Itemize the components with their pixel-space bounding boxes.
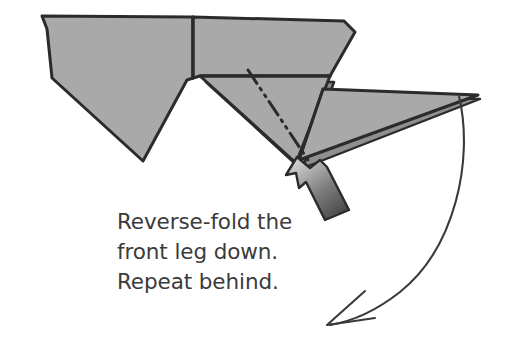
- caption-line-2: front leg down.: [117, 239, 278, 264]
- origami-diagram-page: Reverse-fold the front leg down. Repeat …: [0, 0, 526, 350]
- caption-block: Reverse-fold the front leg down. Repeat …: [117, 209, 292, 294]
- upper-right-body-panel: [193, 17, 355, 78]
- caption-line-1: Reverse-fold the: [117, 209, 292, 234]
- push-arrow: [286, 157, 349, 220]
- caption-line-3: Repeat behind.: [117, 269, 279, 294]
- left-body-panel: [42, 16, 193, 161]
- front-leg-triangle: [299, 89, 478, 160]
- origami-figure: Reverse-fold the front leg down. Repeat …: [0, 0, 526, 350]
- paper-shapes-group: [42, 16, 480, 170]
